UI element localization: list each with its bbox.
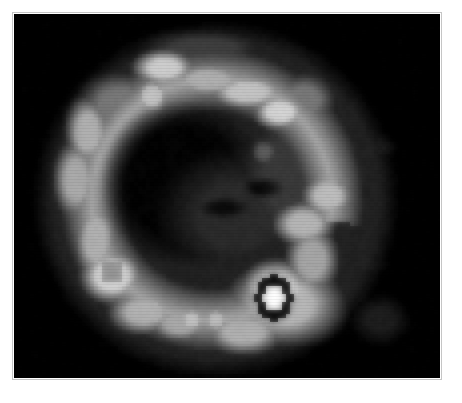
scan-image-canvas — [14, 14, 440, 378]
scan-image-viewer — [0, 0, 462, 403]
scan-image-frame — [14, 14, 440, 378]
